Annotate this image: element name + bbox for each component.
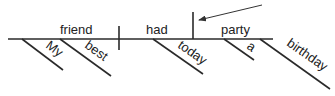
arrow-icon xyxy=(199,5,262,20)
modifier-birthday: birthday xyxy=(284,35,331,74)
modifier-best: best xyxy=(82,37,111,64)
modifier-a: a xyxy=(244,38,259,55)
verb-word: had xyxy=(146,22,168,37)
object-word: party xyxy=(221,22,250,37)
subject-word: friend xyxy=(60,22,93,37)
sentence-diagram: friend had party My best today a birthda… xyxy=(0,0,335,96)
modifier-today: today xyxy=(175,37,210,68)
